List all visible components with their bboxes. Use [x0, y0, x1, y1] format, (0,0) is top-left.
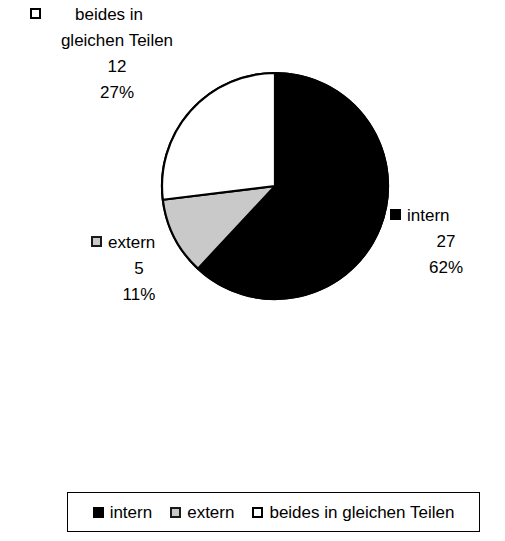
black-square-marker	[93, 507, 104, 518]
white-square-marker	[30, 8, 41, 19]
legend-item-beides-label: beides in gleichen Teilen	[269, 504, 454, 521]
gray-square-marker	[170, 507, 181, 518]
legend-item-extern-label: extern	[187, 504, 234, 521]
pie-label-intern-percent: 62%	[390, 255, 502, 281]
pie-label-beides-in-gleichen-teilen: beides in gleichen Teilen 12 27%	[26, 2, 208, 106]
pie-slice-group	[162, 73, 388, 299]
pie-label-extern-value: 5	[91, 256, 187, 282]
white-square-marker	[252, 507, 263, 518]
legend-item-intern-label: intern	[110, 504, 153, 521]
chart-legend: intern extern beides in gleichen Teilen	[67, 492, 480, 532]
legend-item-beides: beides in gleichen Teilen	[252, 504, 454, 521]
gray-square-marker	[91, 236, 102, 247]
pie-label-intern: intern 27 62%	[390, 203, 502, 281]
pie-label-beides-percent: 27%	[26, 80, 208, 106]
pie-label-beides-value: 12	[26, 54, 208, 80]
pie-label-intern-value: 27	[390, 229, 502, 255]
pie-label-extern-percent: 11%	[91, 282, 187, 308]
pie-label-beides-head: beides in	[26, 2, 208, 28]
pie-label-intern-name: intern	[407, 206, 450, 225]
pie-label-beides-name-line2: gleichen Teilen	[26, 28, 208, 54]
black-square-marker	[390, 209, 401, 220]
legend-item-extern: extern	[170, 504, 234, 521]
pie-label-intern-head: intern	[390, 203, 502, 229]
legend-item-intern: intern	[93, 504, 153, 521]
pie-label-extern-name: extern	[108, 233, 155, 252]
pie-label-extern-head: extern	[91, 230, 187, 256]
pie-label-beides-name-line1: beides in	[75, 5, 143, 24]
pie-label-extern: extern 5 11%	[91, 230, 187, 308]
